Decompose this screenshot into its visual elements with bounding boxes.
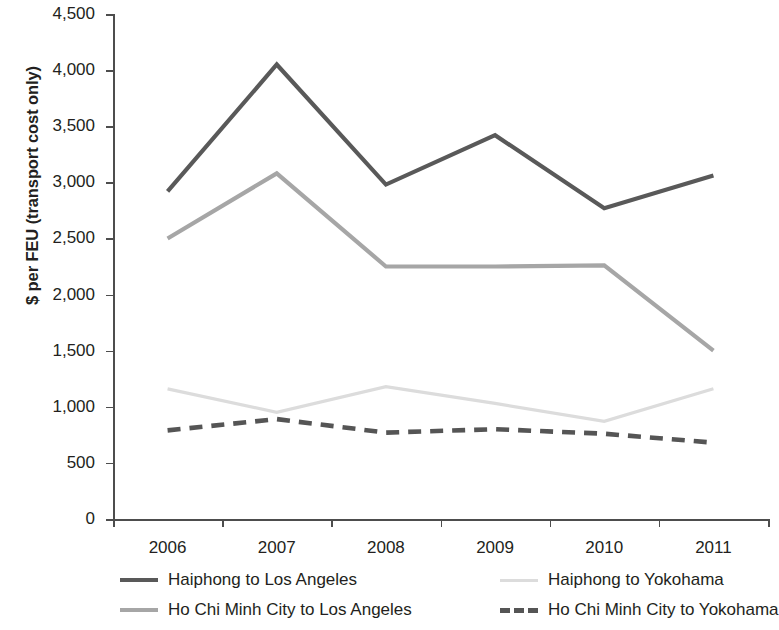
x-axis-tick-label: 2007 xyxy=(258,538,296,558)
x-axis-tick-label: 2006 xyxy=(149,538,187,558)
y-axis-tick-label: 4,500 xyxy=(52,4,95,24)
series-line xyxy=(168,65,714,209)
chart-legend: Haiphong to Los AngelesHaiphong to Yokoh… xyxy=(120,570,768,626)
y-axis-tick-label: 500 xyxy=(67,453,95,473)
legend-label: Ho Chi Minh City to Yokohama xyxy=(548,600,779,620)
legend-swatch-line-icon xyxy=(500,608,538,613)
y-axis-tick-label: 2,500 xyxy=(52,228,95,248)
y-axis-tick: 3,000 xyxy=(106,182,113,184)
y-axis-title: $ per FEU (transport cost only) xyxy=(23,6,42,366)
y-axis-tick: 1,500 xyxy=(106,351,113,353)
y-axis-tick-label: 4,000 xyxy=(52,60,95,80)
x-axis-tick xyxy=(113,519,115,527)
y-axis-tick-label: 1,500 xyxy=(52,341,95,361)
y-axis-tick-label: 1,000 xyxy=(52,397,95,417)
x-axis-tick xyxy=(222,519,224,527)
y-axis-tick: 4,000 xyxy=(106,70,113,72)
legend-item[interactable]: Haiphong to Yokohama xyxy=(500,570,724,590)
legend-swatch-line-icon xyxy=(120,608,158,612)
legend-item[interactable]: Ho Chi Minh City to Yokohama xyxy=(500,600,779,620)
x-axis-tick-label: 2010 xyxy=(585,538,623,558)
y-axis-tick: 500 xyxy=(106,463,113,465)
x-axis-tick xyxy=(768,519,770,527)
y-axis-tick: 0 xyxy=(106,519,113,521)
x-axis-tick xyxy=(550,519,552,527)
y-axis-tick: 2,000 xyxy=(106,295,113,297)
legend-item[interactable]: Ho Chi Minh City to Los Angeles xyxy=(120,600,412,620)
legend-swatch-line-icon xyxy=(500,579,538,582)
x-axis-tick-label: 2008 xyxy=(367,538,405,558)
y-axis-tick-label: 2,000 xyxy=(52,285,95,305)
x-axis-tick-label: 2011 xyxy=(695,538,732,558)
y-axis-tick: 3,500 xyxy=(106,126,113,128)
y-axis-tick: 2,500 xyxy=(106,238,113,240)
legend-swatch-line-icon xyxy=(120,578,158,582)
x-axis-tick xyxy=(659,519,661,527)
series-lines xyxy=(113,14,768,519)
y-axis-tick: 1,000 xyxy=(106,407,113,409)
legend-label: Ho Chi Minh City to Los Angeles xyxy=(168,600,412,620)
y-axis-tick-label: 3,000 xyxy=(52,172,95,192)
series-line xyxy=(168,419,714,443)
x-axis-tick xyxy=(331,519,333,527)
legend-label: Haiphong to Yokohama xyxy=(548,570,724,590)
series-line xyxy=(168,387,714,422)
legend-item[interactable]: Haiphong to Los Angeles xyxy=(120,570,357,590)
legend-label: Haiphong to Los Angeles xyxy=(168,570,357,590)
y-axis-tick-label: 3,500 xyxy=(52,116,95,136)
y-axis-tick-label: 0 xyxy=(86,509,95,529)
y-axis-tick: 4,500 xyxy=(106,14,113,16)
plot-area: 05001,0001,5002,0002,5003,0003,5004,0004… xyxy=(113,14,768,519)
x-axis-tick xyxy=(441,519,443,527)
x-axis-tick-label: 2009 xyxy=(476,538,514,558)
